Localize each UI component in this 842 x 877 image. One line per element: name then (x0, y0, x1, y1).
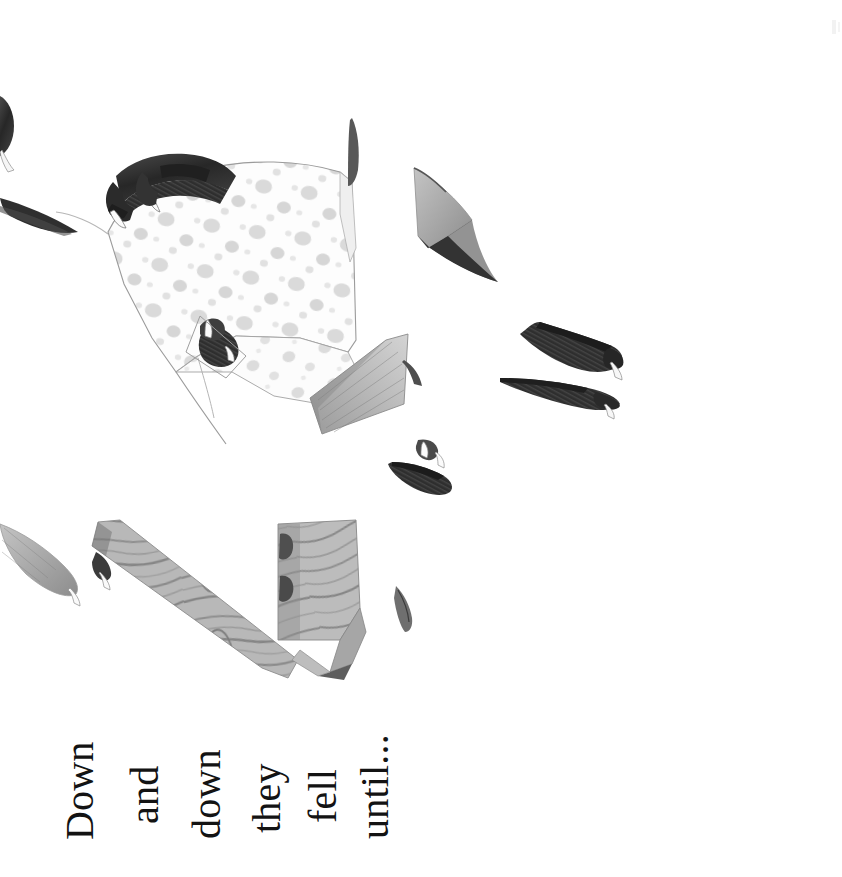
illustration (0, 0, 842, 877)
book-page: Down and down they fell until... (0, 0, 842, 877)
faint-mark-top-right (832, 20, 840, 34)
